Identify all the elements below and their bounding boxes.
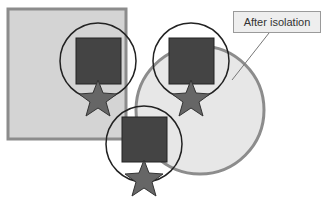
group-square (122, 117, 167, 162)
group-square (169, 38, 214, 84)
star-icon (125, 160, 163, 196)
callout-label: After isolation (233, 11, 321, 33)
group-square (76, 38, 121, 84)
